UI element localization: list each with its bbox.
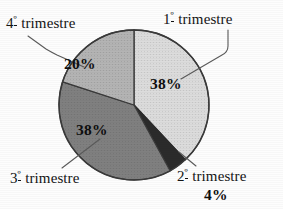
slice-value-q2: 4%: [204, 186, 228, 204]
slice-value-q4: 20%: [64, 55, 96, 73]
slice-label-q4-word: trimestre: [21, 15, 75, 31]
pie-chart-figure: 1º trimestre 4º trimestre 3º trimestre 2…: [0, 0, 283, 209]
slice-label-q4-number: 4: [6, 15, 14, 31]
slice-label-q1: 1º trimestre: [163, 11, 232, 28]
slice-value-q3: 38%: [76, 121, 108, 139]
slice-label-q3-word: trimestre: [25, 170, 79, 186]
slice-label-q2-number: 2: [177, 168, 185, 184]
slice-label-q2: 2º trimestre: [177, 168, 246, 185]
slice-label-q3-number: 3: [10, 170, 18, 186]
slice-label-q2-word: trimestre: [192, 168, 246, 184]
slice-label-q1-number: 1: [163, 11, 171, 27]
slice-label-q3: 3º trimestre: [10, 170, 79, 187]
slice-label-q4: 4º trimestre: [6, 15, 75, 32]
slice-label-q1-word: trimestre: [178, 11, 232, 27]
slice-value-q1: 38%: [150, 75, 182, 93]
